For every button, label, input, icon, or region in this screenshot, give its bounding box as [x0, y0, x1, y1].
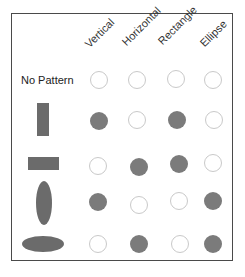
cell-r5-ellipse: [204, 235, 222, 253]
cell-r3-ellipse: [204, 154, 222, 172]
cell-r2-vertical: [90, 112, 108, 130]
vertical-ellipse-icon: [36, 181, 52, 225]
cell-r1-horizontal: [128, 71, 146, 89]
row-label-no-pattern: No Pattern: [21, 74, 74, 86]
horizontal-rectangle-icon: [28, 157, 59, 170]
cell-r5-rectangle: [171, 235, 189, 253]
cell-r3-rectangle: [170, 155, 188, 173]
cell-r4-vertical: [89, 193, 107, 211]
cell-r2-horizontal: [128, 111, 146, 129]
horizontal-ellipse-icon: [22, 236, 64, 252]
vertical-rectangle-icon: [37, 103, 49, 136]
cell-r3-vertical: [89, 157, 107, 175]
cell-r1-vertical: [90, 71, 108, 89]
cell-r4-horizontal: [130, 196, 148, 214]
cell-r4-ellipse: [204, 192, 222, 210]
cell-r2-ellipse: [205, 111, 223, 129]
cell-r4-rectangle: [170, 192, 188, 210]
cell-r2-rectangle: [168, 111, 186, 129]
cell-r5-horizontal: [130, 235, 148, 253]
cell-r1-ellipse: [204, 71, 222, 89]
cell-r1-rectangle: [167, 70, 185, 88]
cell-r3-horizontal: [130, 158, 148, 176]
cell-r5-vertical: [89, 235, 107, 253]
